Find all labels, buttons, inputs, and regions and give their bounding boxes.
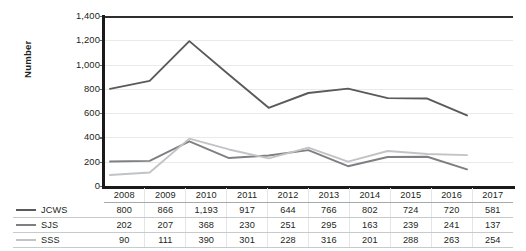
y-tick-label-1200: 1,200 (56, 35, 100, 45)
cell-sjs-2014: 163 (349, 218, 390, 233)
data-table-wrap: 2008200920102011201220132014201520162017… (13, 188, 513, 248)
legend-item-sss[interactable]: SSS (13, 233, 104, 248)
cell-sjs-2009: 207 (145, 218, 186, 233)
column-header-2014: 2014 (349, 188, 390, 203)
cell-sjs-2010: 368 (186, 218, 227, 233)
column-header-2011: 2011 (227, 188, 268, 203)
legend-label-sjs: SJS (41, 220, 58, 230)
cell-sss-2016: 263 (431, 233, 472, 248)
y-tick-label-800: 800 (56, 84, 100, 94)
cell-sjs-2017: 137 (472, 218, 513, 233)
cell-jcws-2017: 581 (472, 203, 513, 218)
data-table-body: 2008200920102011201220132014201520162017… (13, 188, 513, 248)
legend-label-sss: SSS (41, 235, 60, 245)
cell-sjs-2008: 202 (104, 218, 145, 233)
series-lines (104, 16, 513, 186)
y-tick-label-200: 200 (56, 157, 100, 167)
cell-sjs-2013: 295 (308, 218, 349, 233)
column-header-2013: 2013 (308, 188, 349, 203)
table-row: SSS90111390301228316201288263254 (13, 233, 513, 248)
cell-sjs-2011: 230 (227, 218, 268, 233)
y-tick-label-600: 600 (56, 108, 100, 118)
column-header-2016: 2016 (431, 188, 472, 203)
cell-sjs-2012: 251 (268, 218, 309, 233)
y-axis-title: Number (22, 41, 33, 78)
y-axis-spine (102, 15, 105, 187)
cell-sss-2017: 254 (472, 233, 513, 248)
table-row: JCWS8008661,193917644766802724720581 (13, 203, 513, 218)
series-line-sjs (110, 141, 467, 169)
cell-jcws-2016: 720 (431, 203, 472, 218)
cell-jcws-2008: 800 (104, 203, 145, 218)
cell-sss-2010: 390 (186, 233, 227, 248)
column-header-2010: 2010 (186, 188, 227, 203)
y-axis-tick-labels: 02004006008001,0001,2001,400 (56, 16, 100, 186)
cell-jcws-2012: 644 (268, 203, 309, 218)
y-tick-label-400: 400 (56, 132, 100, 142)
plot-area (104, 16, 513, 186)
cell-sjs-2015: 239 (390, 218, 431, 233)
line-chart-figure: Number 02004006008001,0001,2001,400 2008… (0, 0, 526, 251)
column-header-2015: 2015 (390, 188, 431, 203)
cell-sss-2013: 316 (308, 233, 349, 248)
column-header-2017: 2017 (472, 188, 513, 203)
cell-jcws-2015: 724 (390, 203, 431, 218)
cell-jcws-2014: 802 (349, 203, 390, 218)
cell-sss-2014: 201 (349, 233, 390, 248)
column-header-2012: 2012 (268, 188, 309, 203)
y-tick-label-1000: 1,000 (56, 60, 100, 70)
cell-jcws-2009: 866 (145, 203, 186, 218)
legend-label-jcws: JCWS (41, 205, 67, 215)
cell-jcws-2013: 766 (308, 203, 349, 218)
legend-item-jcws[interactable]: JCWS (13, 203, 104, 218)
column-header-2008: 2008 (104, 188, 145, 203)
column-header-2009: 2009 (145, 188, 186, 203)
cell-sss-2008: 90 (104, 233, 145, 248)
y-tick-label-1400: 1,400 (56, 11, 100, 21)
legend-swatch-sss (16, 239, 36, 241)
cell-sjs-2016: 241 (431, 218, 472, 233)
cell-jcws-2011: 917 (227, 203, 268, 218)
cell-sss-2012: 228 (268, 233, 309, 248)
series-line-jcws (110, 41, 467, 115)
cell-jcws-2010: 1,193 (186, 203, 227, 218)
table-row: SJS202207368230251295163239241137 (13, 218, 513, 233)
cell-sss-2009: 111 (145, 233, 186, 248)
legend-swatch-jcws (16, 209, 36, 211)
table-corner-cell (13, 188, 104, 203)
legend-swatch-sjs (16, 224, 36, 226)
cell-sss-2015: 288 (390, 233, 431, 248)
legend-item-sjs[interactable]: SJS (13, 218, 104, 233)
table-header-row: 2008200920102011201220132014201520162017 (13, 188, 513, 203)
cell-sss-2011: 301 (227, 233, 268, 248)
data-table: 2008200920102011201220132014201520162017… (13, 188, 513, 248)
